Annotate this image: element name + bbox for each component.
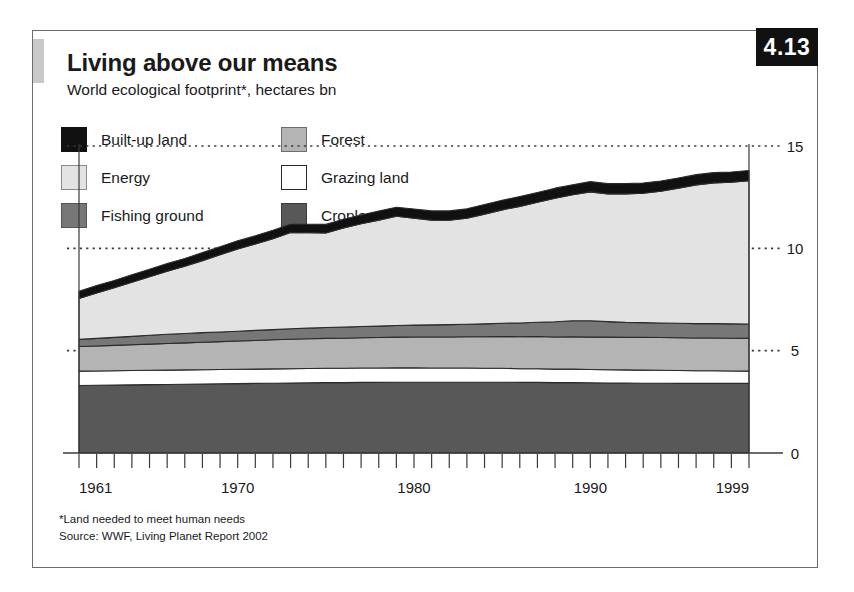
gridlines: [67, 146, 783, 351]
stacked-area-chart: 051015 19611970198019901999: [33, 31, 819, 569]
legend-item-grazing-land[interactable]: Grazing land: [281, 165, 409, 190]
y-tick-label: 5: [791, 342, 799, 359]
legend-swatch-icon: [61, 127, 87, 152]
legend-swatch-icon: [61, 203, 87, 228]
area-forest: [79, 337, 749, 372]
legend-swatch-icon: [281, 127, 307, 152]
legend-item-cropland[interactable]: Cropland: [281, 203, 384, 228]
legend-swatch-icon: [281, 203, 307, 228]
x-tick-label: 1990: [574, 479, 607, 496]
accent-bar: [33, 39, 44, 83]
legend-item-label: Fishing ground: [101, 207, 204, 225]
area-fishing-ground: [79, 321, 749, 347]
figure-frame: Living above our means World ecological …: [32, 30, 818, 568]
page-title: Living above our means: [67, 49, 337, 77]
x-tick-label: 1961: [79, 479, 112, 496]
legend-item-label: Energy: [101, 169, 150, 187]
area-cropland: [79, 382, 749, 453]
y-tick-label: 0: [791, 445, 799, 462]
footnotes: *Land needed to meet human needs Source:…: [59, 511, 268, 544]
y-axis-tick-labels: 051015: [787, 138, 804, 462]
footnote-source: Source: WWF, Living Planet Report 2002: [59, 528, 268, 545]
legend-item-built-up-land[interactable]: Built-up land: [61, 127, 187, 152]
x-tick-label: 1980: [397, 479, 430, 496]
legend-item-label: Grazing land: [321, 169, 409, 187]
chart-number-badge: 4.13: [756, 28, 818, 66]
axis-group: [63, 144, 783, 468]
legend-item-label: Built-up land: [101, 131, 187, 149]
legend-item-label: Cropland: [321, 207, 384, 225]
y-tick-label: 10: [787, 240, 804, 257]
chart-subtitle: World ecological footprint*, hectares bn: [67, 81, 336, 99]
y-tick-label: 15: [787, 138, 804, 155]
legend-item-label: Forest: [321, 131, 365, 149]
area-built-up-land: [79, 171, 749, 299]
footnote-definition: *Land needed to meet human needs: [59, 511, 268, 528]
plot-area: 051015 19611970198019901999: [33, 31, 819, 569]
area-grazing-land: [79, 368, 749, 386]
legend-item-energy[interactable]: Energy: [61, 165, 150, 190]
legend-item-fishing-ground[interactable]: Fishing ground: [61, 203, 204, 228]
x-tick-label: 1970: [221, 479, 254, 496]
legend-swatch-icon: [281, 165, 307, 190]
x-axis-tick-labels: 19611970198019901999: [79, 479, 749, 496]
x-tick-label: 1999: [716, 479, 749, 496]
legend-swatch-icon: [61, 165, 87, 190]
legend-item-forest[interactable]: Forest: [281, 127, 365, 152]
